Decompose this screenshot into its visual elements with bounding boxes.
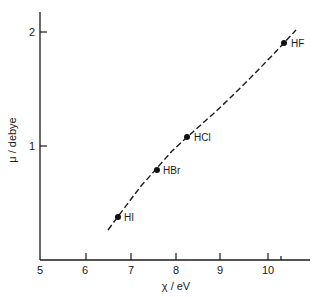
data-point-hcl: HCl <box>184 132 211 143</box>
y-tick-label: 1 <box>29 140 35 152</box>
x-tick-label: 6 <box>82 264 88 276</box>
x-tick-label: 5 <box>37 264 43 276</box>
point-label: HCl <box>194 132 211 143</box>
trend-curve <box>108 30 296 230</box>
point-label: HI <box>124 212 134 223</box>
x-axis-title: χ / eV <box>162 280 191 292</box>
x-tick-label: 8 <box>173 264 179 276</box>
x-ticks <box>86 253 281 260</box>
y-axis-title: μ / debye <box>6 117 18 162</box>
data-point-hi: HI <box>115 212 134 223</box>
x-tick-labels: 5 6 7 8 9 10 <box>37 264 274 276</box>
point-label: HF <box>291 38 304 49</box>
y-ticks <box>40 32 47 146</box>
chart: 5 6 7 8 9 10 1 2 χ / eV μ / debye HI HBr… <box>0 0 320 297</box>
y-tick-label: 2 <box>29 26 35 38</box>
point-label: HBr <box>163 165 181 176</box>
x-tick-label: 7 <box>128 264 134 276</box>
x-tick-label: 10 <box>262 264 274 276</box>
data-point-hbr: HBr <box>154 165 181 176</box>
data-point-hf: HF <box>281 38 304 49</box>
x-tick-label: 9 <box>217 264 223 276</box>
